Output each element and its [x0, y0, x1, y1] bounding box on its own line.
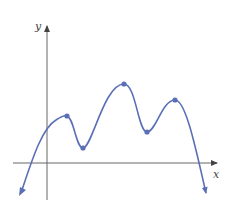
function-curve — [22, 84, 206, 193]
curve-left-arrow-icon — [19, 187, 26, 196]
local-min-point — [80, 145, 85, 150]
local-max-point — [64, 113, 69, 118]
local-min-point — [144, 129, 149, 134]
function-graph: y x — [0, 0, 234, 218]
local-max-point — [172, 97, 177, 102]
local-max-point — [121, 81, 126, 86]
y-axis-label: y — [34, 20, 42, 33]
x-axis-label: x — [213, 168, 220, 181]
